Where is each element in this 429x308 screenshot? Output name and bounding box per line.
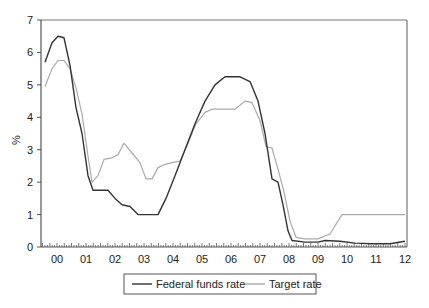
x-tick-label: 08 <box>283 253 295 265</box>
x-tick-label: 07 <box>254 253 266 265</box>
x-tick-label: 09 <box>312 253 324 265</box>
y-axis-ticks: 01234567 <box>27 14 41 253</box>
line-chart: 01234567 00010203040506070809101112 % Fe… <box>0 0 429 308</box>
legend: Federal funds rate Target rate <box>124 274 322 294</box>
x-tick-label: 12 <box>399 253 411 265</box>
y-tick-label: 0 <box>27 241 33 253</box>
series-federal-funds-rate <box>45 36 405 244</box>
y-tick-label: 7 <box>27 14 33 26</box>
y-tick-label: 4 <box>27 111 33 123</box>
plot-frame <box>41 20 407 247</box>
x-tick-label: 10 <box>341 253 353 265</box>
x-tick-label: 06 <box>225 253 237 265</box>
series-target-rate <box>45 61 405 239</box>
x-tick-label: 03 <box>138 253 150 265</box>
x-tick-label: 05 <box>196 253 208 265</box>
x-axis-ticks: 00010203040506070809101112 <box>43 243 412 265</box>
y-axis-label: % <box>10 135 22 145</box>
y-tick-label: 6 <box>27 46 33 58</box>
legend-label-target-rate: Target rate <box>269 278 322 290</box>
y-tick-label: 5 <box>27 79 33 91</box>
x-tick-label: 02 <box>109 253 121 265</box>
y-tick-label: 3 <box>27 144 33 156</box>
x-tick-label: 00 <box>51 253 63 265</box>
legend-label-federal-funds-rate: Federal funds rate <box>156 278 245 290</box>
x-tick-label: 01 <box>80 253 92 265</box>
x-tick-label: 04 <box>167 253 179 265</box>
y-tick-label: 1 <box>27 209 33 221</box>
series-layer <box>45 36 405 244</box>
y-tick-label: 2 <box>27 176 33 188</box>
x-tick-label: 11 <box>370 253 381 265</box>
